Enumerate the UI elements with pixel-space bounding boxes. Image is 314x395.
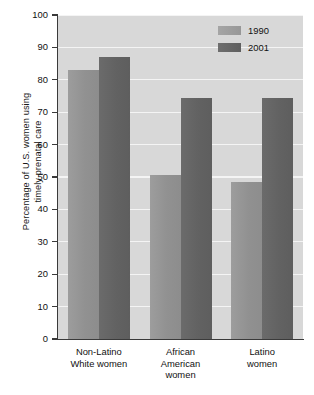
bar-2001-group-3 <box>262 98 293 339</box>
y-axis-tick-label: 10 <box>8 301 48 312</box>
plot-area <box>58 15 303 339</box>
legend-swatch-1990 <box>218 26 241 35</box>
y-axis-tick <box>52 47 58 48</box>
y-axis-tick-label: 0 <box>8 333 48 344</box>
chart-legend: 1990 2001 <box>218 22 269 56</box>
x-axis-category-label: Latino women <box>212 346 312 369</box>
y-axis-tick <box>52 79 58 80</box>
bar-1990-group-3 <box>231 182 262 339</box>
gridline <box>58 15 303 16</box>
y-axis-tick <box>52 112 58 113</box>
y-axis-tick-label: 60 <box>8 139 48 150</box>
y-axis-tick-label: 40 <box>8 203 48 214</box>
y-axis-tick <box>52 14 58 15</box>
y-axis-tick-label: 30 <box>8 236 48 247</box>
y-axis-tick <box>52 274 58 275</box>
y-axis-tick-label: 100 <box>8 9 48 20</box>
legend-label-2001: 2001 <box>248 42 269 53</box>
y-axis-tick-label: 70 <box>8 106 48 117</box>
y-axis-tick-label: 50 <box>8 171 48 182</box>
y-axis-tick <box>52 144 58 145</box>
bar-1990-group-1 <box>68 70 99 339</box>
y-axis-tick <box>52 209 58 210</box>
y-axis-tick <box>52 306 58 307</box>
legend-label-1990: 1990 <box>248 25 269 36</box>
x-axis-line <box>57 339 304 340</box>
legend-item-2001: 2001 <box>218 39 269 56</box>
y-axis-tick-label: 90 <box>8 41 48 52</box>
y-axis-title: Percentage of U.S. women using timely pr… <box>21 32 44 292</box>
bar-2001-group-1 <box>99 57 130 339</box>
y-axis-tick <box>52 176 58 177</box>
y-axis-tick <box>52 338 58 339</box>
bar-2001-group-2 <box>181 98 212 339</box>
y-axis-tick-label: 80 <box>8 74 48 85</box>
y-axis-tick-label: 20 <box>8 268 48 279</box>
y-axis-tick <box>52 241 58 242</box>
bar-chart-figure: Percentage of U.S. women using timely pr… <box>0 0 314 395</box>
legend-swatch-2001 <box>218 43 241 52</box>
legend-item-1990: 1990 <box>218 22 269 39</box>
bar-1990-group-2 <box>150 175 181 339</box>
